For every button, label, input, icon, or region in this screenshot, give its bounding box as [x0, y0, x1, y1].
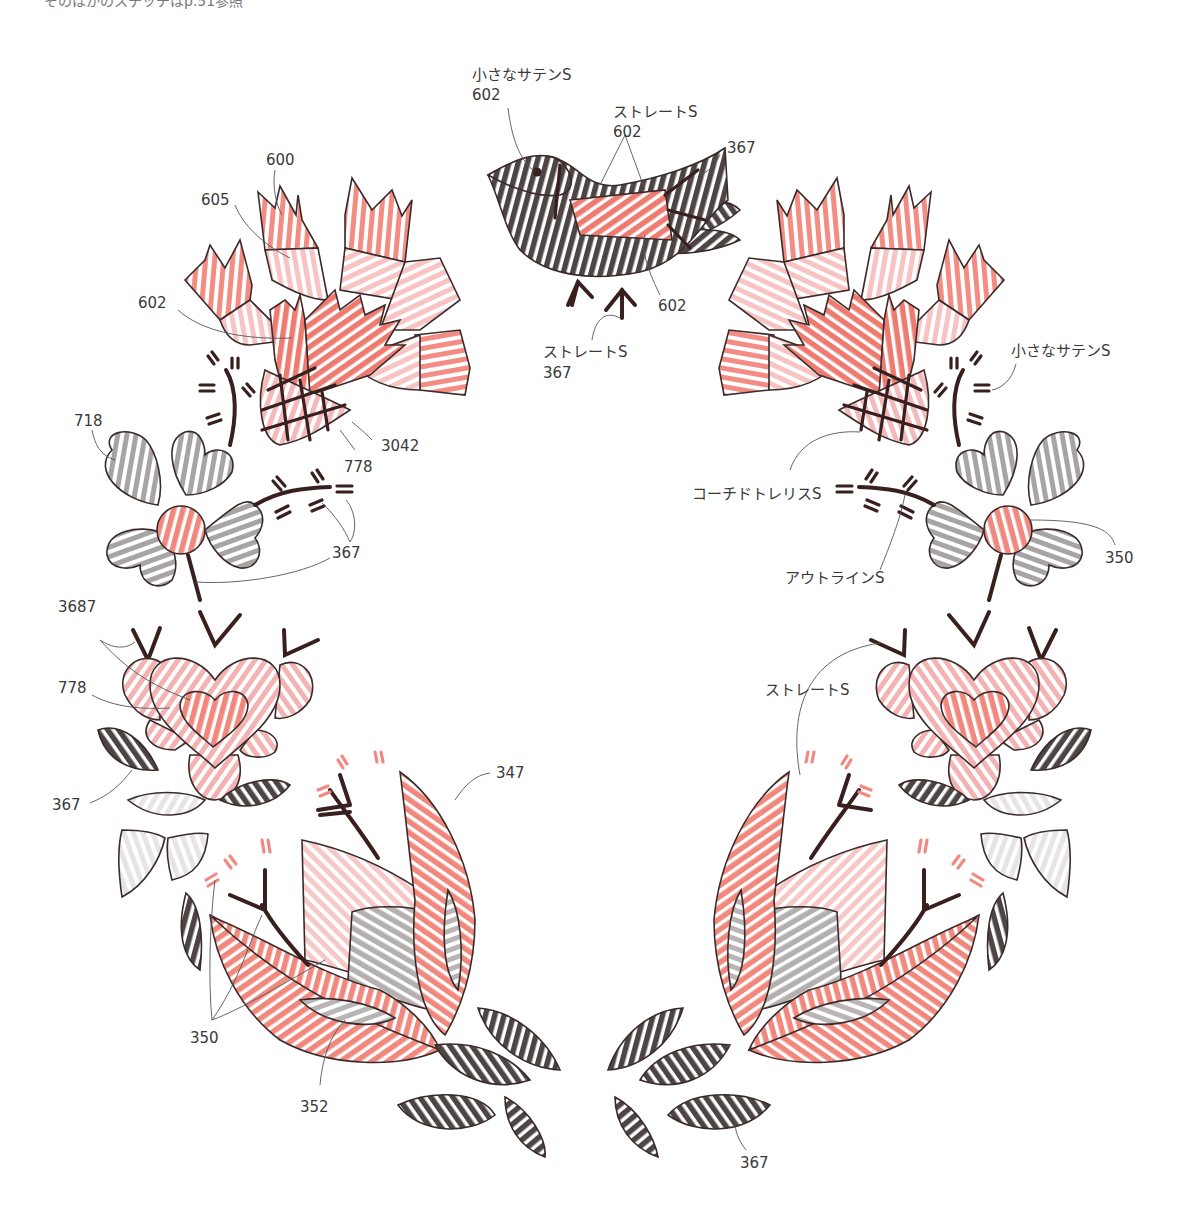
label-bird-small-satin-num: 602 — [472, 86, 501, 104]
leader-rr-straight — [797, 643, 880, 775]
leader-350-a — [210, 880, 215, 1020]
label-bird-small-satin: 小さなサテンS — [472, 66, 572, 84]
label-347: 347 — [496, 764, 525, 782]
label-3687: 3687 — [58, 598, 96, 616]
carnation-left-petal-2 — [345, 178, 412, 262]
leader-tr-satin — [992, 364, 1016, 390]
satin-dash-left-4 — [276, 506, 290, 518]
right-side-motifs — [714, 178, 1091, 1062]
label-tr-small-satin: 小さなサテンS — [1011, 342, 1111, 360]
carnation-left-petal-1b — [265, 248, 328, 300]
satin-dash-left-2 — [312, 470, 323, 482]
carnation-left-petal-5 — [415, 330, 470, 395]
leader-bird-feet — [592, 315, 620, 340]
satin-pink-2 — [375, 752, 383, 762]
label-367-leaf: 367 — [52, 796, 81, 814]
label-3042: 3042 — [381, 437, 419, 455]
satin-dash-left-3 — [337, 486, 352, 492]
leader-778 — [340, 430, 355, 450]
leader-tr-trellis — [790, 432, 860, 470]
leader-bird-straight-a — [600, 135, 625, 185]
bird-motif — [488, 148, 740, 318]
clover-left-stem — [188, 555, 200, 600]
label-bird-feet-num: 367 — [543, 364, 572, 382]
satin-pink-1 — [338, 756, 347, 768]
label-350: 350 — [190, 1029, 219, 1047]
satin-dash-left-1 — [273, 477, 285, 490]
label-367-mid: 367 — [332, 544, 361, 562]
embroidery-diagram: 小さなサテンS 602 ストレートS 602 367 602 ストレートS 36… — [0, 0, 1189, 1220]
label-367-bottom: 367 — [740, 1154, 769, 1172]
heart-left-side-petal-r — [275, 662, 313, 718]
label-tr-350: 350 — [1105, 549, 1134, 567]
label-602: 602 — [138, 294, 167, 312]
clover-flower-left — [105, 431, 352, 600]
clover-left-petal-2 — [172, 431, 233, 495]
small-satin-left — [200, 352, 254, 445]
carnation-left — [185, 178, 470, 445]
label-605: 605 — [201, 191, 230, 209]
label-600: 600 — [266, 151, 295, 169]
satin-pink-4 — [225, 856, 236, 868]
clover-left-petal-1 — [105, 432, 160, 505]
label-bird-wing-num: 367 — [727, 139, 756, 157]
satin-pink-6 — [206, 874, 218, 886]
bird-eye — [533, 168, 542, 177]
heart-flower-left — [123, 612, 318, 800]
bottom-leaves — [398, 1008, 770, 1157]
label-bird-straight-num: 602 — [613, 123, 642, 141]
leader-347 — [455, 773, 490, 800]
satin-dash-left-5 — [310, 500, 324, 511]
satin-pink-5 — [262, 840, 270, 852]
clover-left-center — [157, 506, 205, 554]
label-bird-feet-straight: ストレートS — [543, 343, 628, 361]
label-bird-body-num: 602 — [658, 297, 687, 315]
satin-pink-3 — [318, 786, 330, 796]
label-bird-straight: ストレートS — [613, 103, 698, 121]
label-tr-outline: アウトラインS — [785, 569, 885, 587]
leader-367-c — [196, 558, 330, 583]
label-718: 718 — [74, 412, 103, 430]
label-352: 352 — [300, 1098, 329, 1116]
leader-367-leaf — [90, 770, 132, 803]
label-rr-straight: ストレートS — [765, 681, 850, 699]
clover-left-petal-3 — [205, 502, 263, 568]
label-778-b: 778 — [58, 679, 87, 697]
carnation-left-petal-1 — [258, 186, 318, 250]
label-778: 778 — [344, 458, 373, 476]
leader-367-a — [322, 503, 350, 542]
label-tr-coached-trellis: コーチドトレリスS — [692, 485, 822, 503]
leader-3042 — [352, 422, 372, 440]
